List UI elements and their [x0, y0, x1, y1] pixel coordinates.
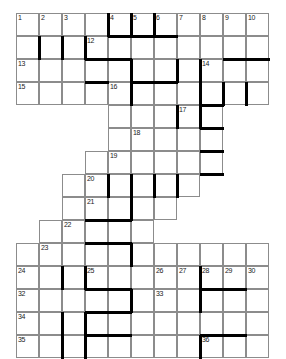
crossword-cell[interactable]	[223, 82, 246, 105]
crossword-cell[interactable]	[108, 128, 131, 151]
crossword-cell[interactable]: 24	[16, 266, 39, 289]
crossword-cell[interactable]	[39, 266, 62, 289]
crossword-cell[interactable]: 13	[16, 59, 39, 82]
crossword-cell[interactable]	[154, 312, 177, 335]
crossword-cell[interactable]	[154, 151, 177, 174]
crossword-cell[interactable]	[131, 105, 154, 128]
crossword-cell[interactable]	[131, 266, 154, 289]
crossword-cell[interactable]	[16, 243, 39, 266]
crossword-cell[interactable]	[177, 335, 200, 358]
crossword-cell[interactable]	[131, 220, 154, 243]
crossword-cell[interactable]	[177, 312, 200, 335]
crossword-cell[interactable]	[177, 243, 200, 266]
crossword-cell[interactable]	[108, 289, 131, 312]
crossword-cell[interactable]	[154, 36, 177, 59]
crossword-cell[interactable]	[85, 289, 108, 312]
crossword-cell[interactable]	[62, 312, 85, 335]
crossword-cell[interactable]	[131, 289, 154, 312]
crossword-cell[interactable]	[177, 59, 200, 82]
crossword-cell[interactable]	[62, 266, 85, 289]
crossword-cell[interactable]	[108, 36, 131, 59]
crossword-cell[interactable]	[62, 82, 85, 105]
crossword-cell[interactable]: 8	[200, 13, 223, 36]
crossword-cell[interactable]	[177, 174, 200, 197]
crossword-cell[interactable]: 4	[108, 13, 131, 36]
crossword-cell[interactable]	[223, 36, 246, 59]
crossword-cell[interactable]: 23	[39, 243, 62, 266]
crossword-cell[interactable]: 33	[154, 289, 177, 312]
crossword-cell[interactable]	[108, 59, 131, 82]
crossword-cell[interactable]: 14	[200, 59, 223, 82]
crossword-cell[interactable]	[85, 312, 108, 335]
crossword-cell[interactable]	[177, 36, 200, 59]
crossword-cell[interactable]	[200, 289, 223, 312]
crossword-cell[interactable]	[39, 82, 62, 105]
crossword-cell[interactable]	[154, 105, 177, 128]
crossword-cell[interactable]: 25	[85, 266, 108, 289]
crossword-cell[interactable]	[85, 82, 108, 105]
crossword-cell[interactable]	[85, 243, 108, 266]
crossword-cell[interactable]: 20	[85, 174, 108, 197]
crossword-cell[interactable]	[85, 335, 108, 358]
crossword-cell[interactable]	[154, 128, 177, 151]
crossword-cell[interactable]: 35	[16, 335, 39, 358]
crossword-cell[interactable]	[246, 243, 269, 266]
crossword-cell[interactable]	[108, 243, 131, 266]
crossword-cell[interactable]	[62, 174, 85, 197]
crossword-cell[interactable]	[223, 289, 246, 312]
crossword-cell[interactable]	[39, 289, 62, 312]
crossword-cell[interactable]	[223, 59, 246, 82]
crossword-cell[interactable]	[154, 174, 177, 197]
crossword-cell[interactable]	[39, 335, 62, 358]
crossword-cell[interactable]	[246, 59, 269, 82]
crossword-cell[interactable]: 36	[200, 335, 223, 358]
crossword-cell[interactable]: 22	[62, 220, 85, 243]
crossword-cell[interactable]	[154, 82, 177, 105]
crossword-cell[interactable]: 1	[16, 13, 39, 36]
crossword-cell[interactable]	[62, 59, 85, 82]
crossword-cell[interactable]	[177, 128, 200, 151]
crossword-cell[interactable]: 10	[246, 13, 269, 36]
crossword-cell[interactable]	[131, 59, 154, 82]
crossword-cell[interactable]: 9	[223, 13, 246, 36]
crossword-cell[interactable]	[154, 197, 177, 220]
crossword-cell[interactable]: 32	[16, 289, 39, 312]
crossword-cell[interactable]	[131, 174, 154, 197]
crossword-cell[interactable]: 28	[200, 266, 223, 289]
crossword-cell[interactable]	[177, 82, 200, 105]
crossword-cell[interactable]	[108, 266, 131, 289]
crossword-cell[interactable]: 12	[85, 36, 108, 59]
crossword-cell[interactable]	[62, 36, 85, 59]
crossword-cell[interactable]: 26	[154, 266, 177, 289]
crossword-cell[interactable]	[85, 220, 108, 243]
crossword-cell[interactable]	[85, 151, 108, 174]
crossword-cell[interactable]: 21	[85, 197, 108, 220]
crossword-cell[interactable]	[200, 128, 223, 151]
crossword-cell[interactable]	[131, 335, 154, 358]
crossword-cell[interactable]	[223, 243, 246, 266]
crossword-cell[interactable]: 15	[16, 82, 39, 105]
crossword-cell[interactable]: 30	[246, 266, 269, 289]
crossword-cell[interactable]	[200, 151, 223, 174]
crossword-cell[interactable]	[131, 151, 154, 174]
crossword-cell[interactable]	[177, 151, 200, 174]
crossword-cell[interactable]	[131, 197, 154, 220]
crossword-cell[interactable]	[85, 13, 108, 36]
crossword-cell[interactable]: 16	[108, 82, 131, 105]
crossword-cell[interactable]: 18	[131, 128, 154, 151]
crossword-cell[interactable]	[223, 335, 246, 358]
crossword-cell[interactable]	[16, 36, 39, 59]
crossword-cell[interactable]	[131, 243, 154, 266]
crossword-cell[interactable]: 29	[223, 266, 246, 289]
crossword-cell[interactable]	[246, 335, 269, 358]
crossword-cell[interactable]	[223, 312, 246, 335]
crossword-cell[interactable]	[62, 289, 85, 312]
crossword-cell[interactable]	[85, 59, 108, 82]
crossword-cell[interactable]	[108, 174, 131, 197]
crossword-cell[interactable]: 3	[62, 13, 85, 36]
crossword-cell[interactable]: 6	[154, 13, 177, 36]
crossword-cell[interactable]	[62, 335, 85, 358]
crossword-cell[interactable]	[131, 82, 154, 105]
crossword-cell[interactable]: 34	[16, 312, 39, 335]
crossword-cell[interactable]	[154, 59, 177, 82]
